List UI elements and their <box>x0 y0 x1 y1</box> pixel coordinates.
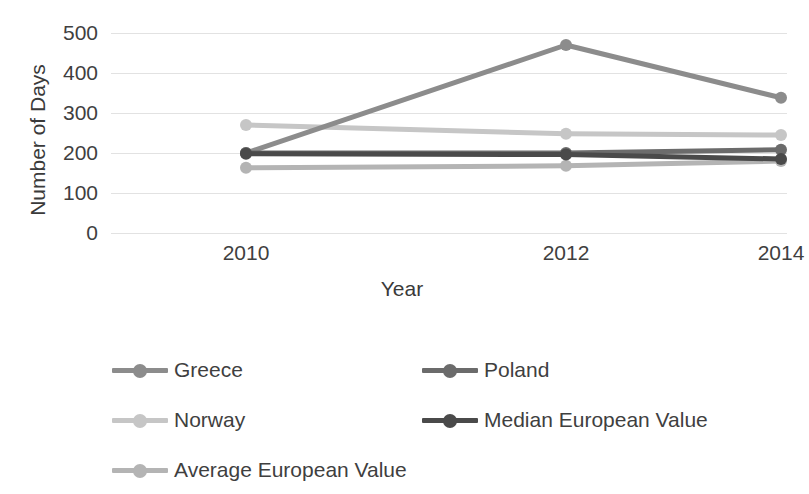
gridline <box>111 233 787 234</box>
y-axis-tick-label: 100 <box>34 182 98 203</box>
legend-swatch-icon <box>112 412 168 428</box>
data-point-marker <box>240 119 252 131</box>
legend-swatch-icon <box>422 362 478 378</box>
legend-item[interactable]: Poland <box>422 347 549 393</box>
y-axis-tick-label: 300 <box>34 102 98 123</box>
legend-item[interactable]: Median European Value <box>422 397 708 443</box>
data-point-marker <box>775 92 787 104</box>
legend-item[interactable]: Greece <box>112 347 243 393</box>
series-line <box>246 154 781 159</box>
data-point-marker <box>775 153 787 165</box>
y-axis-tick-label: 200 <box>34 142 98 163</box>
data-point-marker <box>240 148 252 160</box>
series-line <box>246 161 781 168</box>
legend-item[interactable]: Norway <box>112 397 245 443</box>
legend-item-label: Greece <box>174 358 243 382</box>
legend-item-label: Median European Value <box>484 408 708 432</box>
legend-item-label: Norway <box>174 408 245 432</box>
data-point-marker <box>775 129 787 141</box>
x-axis-tick-label: 2012 <box>506 241 626 265</box>
x-axis-tick-label: 2010 <box>186 241 306 265</box>
data-point-marker <box>560 149 572 161</box>
legend-swatch-icon <box>422 412 478 428</box>
data-point-marker <box>560 128 572 140</box>
legend-item-label: Average European Value <box>174 458 407 482</box>
x-axis-tick-label: 2014 <box>721 241 809 265</box>
legend-item-label: Poland <box>484 358 549 382</box>
y-axis-tick-label: 0 <box>34 222 98 243</box>
data-point-marker <box>560 39 572 51</box>
y-axis-tick-labels: 0100200300400500 <box>34 0 98 494</box>
y-axis-tick-label: 400 <box>34 62 98 83</box>
plot-area <box>111 33 787 233</box>
series-lines <box>111 33 787 233</box>
y-axis-tick-label: 500 <box>34 22 98 43</box>
legend-swatch-icon <box>112 362 168 378</box>
legend-item[interactable]: Average European Value <box>112 447 407 493</box>
data-point-marker <box>240 162 252 174</box>
legend-swatch-icon <box>112 462 168 478</box>
x-axis-title: Year <box>0 277 804 301</box>
data-point-marker <box>560 160 572 172</box>
